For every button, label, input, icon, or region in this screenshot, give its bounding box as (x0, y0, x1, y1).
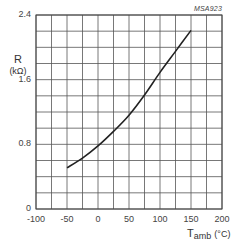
x-axis-symbol: T (187, 227, 194, 239)
x-tick-label: -100 (27, 214, 45, 224)
x-tick-label: -50 (60, 214, 73, 224)
x-axis-label: Tamb (°C) (187, 227, 230, 241)
y-tick-label: 0.8 (18, 138, 31, 148)
x-tick-label: 200 (214, 214, 229, 224)
x-tick-label: 150 (183, 214, 198, 224)
x-axis-subscript: amb (194, 231, 212, 241)
x-axis-unit: (°C) (214, 229, 230, 239)
x-tick-label: 50 (124, 214, 134, 224)
x-tick-label: 100 (152, 214, 167, 224)
x-tick-label: 0 (95, 214, 100, 224)
y-tick-label: 0 (26, 203, 31, 213)
plot-area (0, 0, 239, 250)
y-tick-label: 1.6 (18, 74, 31, 84)
y-tick-label: 2.4 (18, 9, 31, 19)
